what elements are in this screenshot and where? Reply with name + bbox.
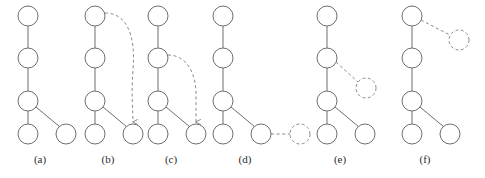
curve-move-root-to-leaf-right: [105, 13, 134, 122]
node-level3: [317, 91, 337, 111]
edge-level3-to-leaf-middle: [231, 107, 255, 127]
node-level3: [213, 91, 233, 111]
node-level2: [148, 48, 168, 68]
panel-e: (e): [317, 6, 376, 166]
node-leaf-right: [123, 124, 143, 144]
node-level3: [402, 91, 422, 111]
edge-level3-to-leaf-right: [166, 107, 190, 127]
node-leaf-right: [56, 124, 76, 144]
ghost-node-ghost-branch: [356, 78, 376, 98]
node-level3: [148, 91, 168, 111]
panel-label-d: (d): [239, 153, 252, 166]
node-leaf-left: [317, 124, 337, 144]
node-level2: [402, 48, 422, 68]
node-leaf-left: [18, 124, 38, 144]
panel-c: (c): [148, 6, 206, 166]
node-root: [317, 6, 337, 26]
figure-canvas: (a)(b)(c)(d)(e)(f): [0, 0, 485, 178]
panel-label-b: (b): [102, 153, 115, 166]
panel-b: (b): [85, 6, 143, 166]
edge-level2-to-ghost-branch: [336, 62, 358, 82]
node-root: [213, 6, 233, 26]
node-level2: [18, 48, 38, 68]
node-level2: [213, 48, 233, 68]
edge-level3-to-leaf-right: [103, 107, 127, 127]
node-leaf-middle: [251, 124, 271, 144]
edge-root-to-ghost-branch: [421, 20, 450, 35]
edge-level3-to-leaf-right: [335, 107, 359, 127]
edge-level3-to-leaf-right: [36, 107, 60, 127]
ghost-node-ghost-branch: [449, 30, 469, 50]
tree-operation-figure: (a)(b)(c)(d)(e)(f): [0, 0, 485, 178]
node-level3: [85, 91, 105, 111]
node-leaf-left: [148, 124, 168, 144]
panel-label-a: (a): [34, 153, 47, 166]
node-root: [85, 6, 105, 26]
panel-d: (d): [213, 6, 310, 166]
panels-group: (a)(b)(c)(d)(e)(f): [18, 6, 469, 166]
panel-label-c: (c): [165, 153, 178, 166]
node-root: [148, 6, 168, 26]
node-leaf-right: [355, 124, 375, 144]
node-level2: [317, 48, 337, 68]
node-leaf-right: [440, 124, 460, 144]
edge-level3-to-leaf-right: [420, 107, 444, 127]
node-level2: [85, 48, 105, 68]
panel-a: (a): [18, 6, 76, 166]
panel-f: (f): [402, 6, 469, 166]
node-leaf-right: [186, 124, 206, 144]
node-root: [18, 6, 38, 26]
panel-label-e: (e): [334, 153, 347, 166]
ghost-node-leaf-ghost-right: [290, 124, 310, 144]
node-leaf-left: [213, 124, 233, 144]
node-leaf-left: [402, 124, 422, 144]
node-root: [402, 6, 422, 26]
panel-label-f: (f): [420, 153, 431, 166]
node-level3: [18, 91, 38, 111]
node-leaf-left: [85, 124, 105, 144]
